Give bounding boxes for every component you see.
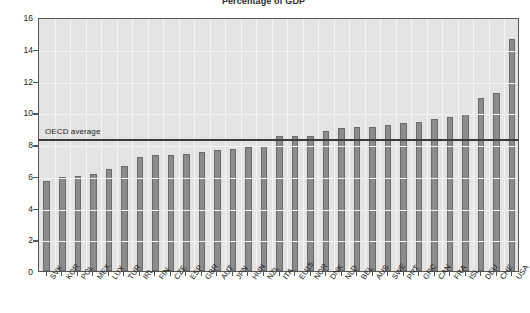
bar-aus [369,127,376,271]
gridline-vertical [442,19,443,271]
bar-dnk [323,131,330,271]
gridline-horizontal [39,241,518,242]
y-tick-label: 8 [3,141,33,149]
y-tick-mark [33,113,38,115]
bar-nzl [261,146,268,271]
gridline-vertical [117,19,118,271]
bar-fin [152,155,159,271]
gridline-horizontal [39,83,518,84]
plot-area: OECD average [38,18,519,272]
gridline-vertical [101,19,102,271]
bar-che [493,93,500,271]
bar-tur [121,166,128,271]
x-tick-mark [46,272,47,276]
gridline-vertical [334,19,335,271]
gridline-vertical [396,19,397,271]
y-tick-mark [33,50,38,52]
y-tick-label: 6 [3,173,33,181]
gridline-horizontal [39,51,518,52]
gridline-horizontal [39,210,518,211]
gridline-vertical [349,19,350,271]
y-tick-label: 12 [3,78,33,86]
gridline-vertical [70,19,71,271]
y-tick-mark [33,145,38,147]
gridline-vertical [55,19,56,271]
bar-pol [75,176,82,271]
x-tick-mark [123,272,124,276]
y-tick-mark [33,240,38,242]
x-tick-mark [92,272,93,276]
gridline-horizontal [39,146,518,147]
gridline-vertical [272,19,273,271]
y-axis: 0246810121416 [0,18,33,272]
bar-svk [43,181,50,271]
gridline-vertical [365,19,366,271]
bar-cze [168,155,175,271]
bars-layer [39,19,518,271]
gridline-horizontal [39,178,518,179]
x-tick-mark [279,272,280,276]
y-tick-label: 0 [3,268,33,276]
gridline-vertical [163,19,164,271]
x-tick-mark [247,272,248,276]
bar-gbr [199,152,206,271]
x-tick-mark [154,272,155,276]
bar-bel [354,127,361,271]
bar-isl [462,114,469,271]
bar-ita [276,136,283,271]
gridline-vertical [86,19,87,271]
y-tick-mark [33,209,38,211]
y-tick-label: 14 [3,46,33,54]
gridline-vertical [473,19,474,271]
oecd-average-label: OECD average [45,127,100,136]
gridline-vertical [194,19,195,271]
bar-nld [338,128,345,271]
bar-can [431,119,438,271]
x-axis-labels: SVKKORPOLMEXLUXTURIRLFINCZEESPGBRAUTJPNH… [38,276,519,313]
gridline-vertical [132,19,133,271]
bar-esp [183,154,190,271]
y-tick-label: 4 [3,205,33,213]
gridline-vertical [318,19,319,271]
gridline-vertical [179,19,180,271]
bar-eu15 [292,136,299,271]
bar-aut [214,150,221,271]
gridline-vertical [411,19,412,271]
bar-kor [59,177,66,271]
y-tick-mark [33,82,38,84]
gridline-vertical [256,19,257,271]
bar-lux [106,169,113,271]
y-tick-label: 10 [3,109,33,117]
gridline-vertical [287,19,288,271]
y-tick-label: 16 [3,14,33,22]
gridline-vertical [380,19,381,271]
gridline-vertical [225,19,226,271]
x-tick-mark [185,272,186,276]
gridline-vertical [489,19,490,271]
y-tick-mark [33,177,38,179]
bar-nor [307,136,314,271]
bar-irl [137,157,144,271]
gridline-vertical [504,19,505,271]
gridline-vertical [427,19,428,271]
gridline-horizontal [39,114,518,115]
bar-grc [416,122,423,271]
bar-usa [509,39,516,271]
gridline-vertical [148,19,149,271]
bar-deu [478,98,485,271]
bar-mex [90,174,97,271]
gridline-vertical [210,19,211,271]
y-tick-label: 2 [3,236,33,244]
oecd-average-line [39,139,518,141]
gridline-vertical [303,19,304,271]
chart-title: Percentage of GDP [0,0,527,7]
x-tick-mark [216,272,217,276]
gridline-vertical [241,19,242,271]
gridline-vertical [458,19,459,271]
